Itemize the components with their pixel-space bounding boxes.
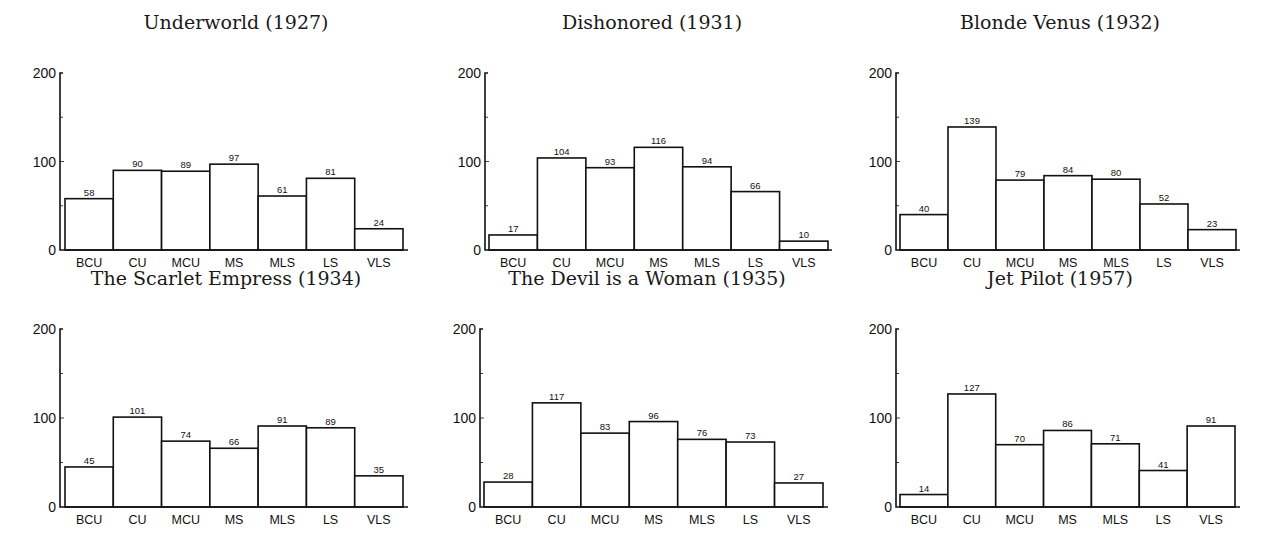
y-tick-label: 100 <box>869 410 893 426</box>
bar-ls: 41 <box>1139 459 1187 507</box>
x-tick-label: VLS <box>1199 513 1223 527</box>
bar-value-label: 70 <box>1014 433 1025 444</box>
bar-value-label: 14 <box>919 483 930 494</box>
bar-bcu: 14 <box>900 483 948 507</box>
y-tick-label: 0 <box>884 499 892 515</box>
x-tick-label: MLS <box>1103 513 1129 527</box>
bar-value-label: 86 <box>1062 418 1073 429</box>
bar-value-label: 71 <box>1110 432 1121 443</box>
bar-ms: 86 <box>1044 418 1092 507</box>
bar-value-label: 91 <box>1206 414 1217 425</box>
x-tick-label: BCU <box>911 513 937 527</box>
bar-mcu: 70 <box>996 433 1044 507</box>
y-tick-label: 200 <box>869 321 893 337</box>
x-tick-label: CU <box>963 513 981 527</box>
x-tick-label: LS <box>1156 513 1171 527</box>
chart-title: Jet Pilot (1957) <box>985 267 1133 289</box>
x-tick-label: MS <box>1058 513 1077 527</box>
bar-value-label: 41 <box>1158 459 1169 470</box>
bar-value-label: 127 <box>964 382 980 393</box>
bar-vls: 91 <box>1187 414 1235 507</box>
bar-mls: 71 <box>1091 432 1139 507</box>
x-tick-label: MCU <box>1005 513 1033 527</box>
bar-cu: 127 <box>948 382 996 507</box>
